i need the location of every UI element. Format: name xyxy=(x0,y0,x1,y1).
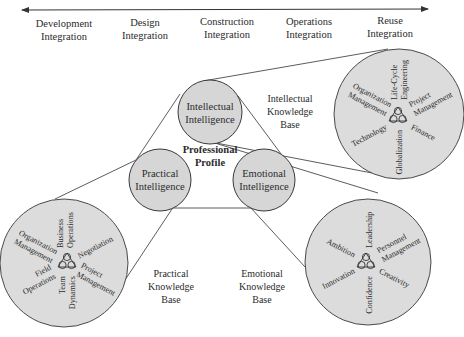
emotional-intelligence-circle xyxy=(233,149,295,211)
practical-knowledge-circle xyxy=(0,199,128,327)
emotional-knowledge-base-label: EmotionalKnowledgeBase xyxy=(239,268,286,305)
phase-operations: OperationsIntegration xyxy=(286,16,333,40)
phase-construction: ConstructionIntegration xyxy=(200,16,255,40)
phase-reuse: ReuseIntegration xyxy=(367,15,414,39)
practical-intelligence-circle xyxy=(129,149,191,211)
phase-development: DevelopmentIntegration xyxy=(36,18,93,42)
practical-knowledge-base-label: PracticalKnowledgeBase xyxy=(148,268,195,305)
item-life-cycle-engineering: Life-CycleEngineering xyxy=(390,60,409,100)
emotional-base-tangent xyxy=(250,207,306,268)
item-confidence: Confidence xyxy=(365,276,374,314)
intellectual-knowledge-base-label: IntellectualKnowledgeBase xyxy=(267,93,314,130)
practical-base-upper-tangent xyxy=(55,160,136,199)
intellectual-intelligence-circle xyxy=(178,80,242,144)
item-leadership: Leadership xyxy=(365,212,374,248)
item-globalization: Globalization xyxy=(395,130,404,175)
phase-design: DesignIntegration xyxy=(122,17,169,41)
timeline-arrow xyxy=(22,9,428,10)
professional-profile-label: ProfessionalProfile xyxy=(183,144,238,168)
professional-profile-diagram: DevelopmentIntegration DesignIntegration… xyxy=(0,0,464,337)
timeline-phases: DevelopmentIntegration DesignIntegration… xyxy=(36,15,414,42)
